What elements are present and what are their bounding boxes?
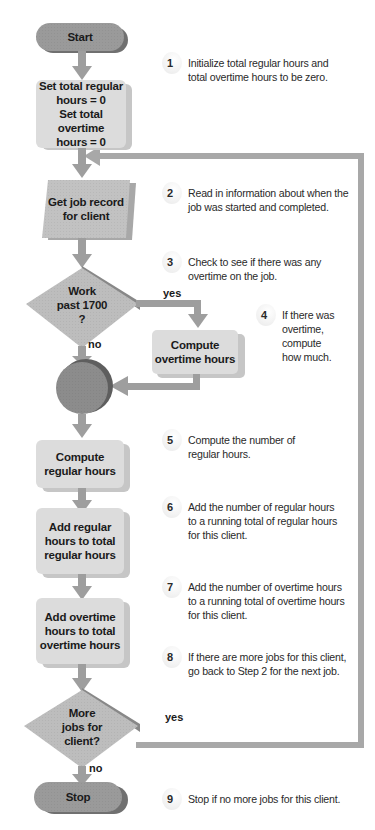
add-ot-line: hours to total xyxy=(45,624,116,638)
step-text: Stop if no more jobs for this client. xyxy=(188,792,340,806)
add-ot-node: Add overtime hours to total overtime hou… xyxy=(36,598,124,664)
init-node-line: hours = 0 xyxy=(56,135,106,149)
step-text-line: go back to Step 2 for the next job. xyxy=(188,664,346,678)
more-jobs-line: client? xyxy=(64,734,100,748)
stop-node: Stop xyxy=(34,782,122,812)
step-text-line: overtime, xyxy=(282,322,334,336)
step-text-line: Initialize total regular hours and xyxy=(188,56,328,70)
step-text-line: If there are more jobs for this client, xyxy=(188,650,346,664)
step-text-line: total overtime hours to be zero. xyxy=(188,70,328,84)
step-text-line: how much. xyxy=(282,350,334,364)
step-text-line: Compute the number of xyxy=(188,433,295,447)
step-text: Read in information about when the job w… xyxy=(188,186,348,214)
step-number: 3 xyxy=(167,256,173,268)
arrow-add-ot-to-more-jobs xyxy=(72,664,92,692)
step-text: Initialize total regular hours and total… xyxy=(188,56,328,84)
step-number: 8 xyxy=(167,651,173,663)
step-number: 6 xyxy=(167,501,173,513)
arrow-getjob-to-decision xyxy=(72,238,92,268)
init-node-line: Set total overtime xyxy=(36,107,126,135)
init-node-line: hours = 0 xyxy=(56,93,106,107)
compute-reg-line: Compute xyxy=(56,450,104,464)
step-text: Add the number of regular hours to a run… xyxy=(188,500,337,542)
step-number: 7 xyxy=(167,581,173,593)
start-node: Start xyxy=(36,23,124,51)
get-job-node: Get job record for client xyxy=(44,182,128,236)
work-past-line: ? xyxy=(79,312,86,326)
arrow-connector-to-compute-reg xyxy=(72,414,92,438)
step-number: 4 xyxy=(261,309,267,321)
step-text: Add the number of overtime hours to a ru… xyxy=(188,580,345,622)
step-text-line: Read in information about when the xyxy=(188,186,348,200)
edge-label-more-jobs-yes: yes xyxy=(165,711,183,723)
step-text-line: to a running total of regular hours xyxy=(188,514,337,528)
step-text-line: If there was xyxy=(282,308,334,322)
work-past-line: Work xyxy=(68,284,96,298)
step-text-line: to a running total of overtime hours xyxy=(188,594,345,608)
add-reg-line: hours to total xyxy=(45,534,116,548)
step-text: If there are more jobs for this client, … xyxy=(188,650,346,678)
compute-reg-node: Compute regular hours xyxy=(36,440,124,488)
step-number: 2 xyxy=(167,187,173,199)
add-ot-line: Add overtime xyxy=(44,610,115,624)
step-text: If there was overtime, compute how much. xyxy=(282,308,334,364)
more-jobs-decision-node: More jobs for client? xyxy=(42,704,122,750)
stop-node-label: Stop xyxy=(66,790,91,804)
get-job-node-line: for client xyxy=(63,209,110,223)
compute-reg-line: regular hours xyxy=(44,464,116,478)
get-job-node-line: Get job record xyxy=(48,195,124,209)
arrow-init-to-getjob xyxy=(72,148,92,178)
step-text-line: for this client. xyxy=(188,528,337,542)
step-text-line: Stop if no more jobs for this client. xyxy=(188,792,340,806)
step-number: 5 xyxy=(167,434,173,446)
step-text-line: Add the number of regular hours xyxy=(188,500,337,514)
step-text-line: job was started and completed. xyxy=(188,200,348,214)
start-node-label: Start xyxy=(67,30,92,44)
add-ot-line: overtime hours xyxy=(40,638,120,652)
edge-label-work-past-no: no xyxy=(88,338,101,350)
step-text: Compute the number of regular hours. xyxy=(188,433,295,461)
edge-label-work-past-yes: yes xyxy=(163,287,181,299)
step-text-line: regular hours. xyxy=(188,447,295,461)
connector-circle-shape xyxy=(56,359,113,414)
compute-ot-line: Compute xyxy=(171,338,219,352)
work-past-line: past 1700 xyxy=(57,298,108,312)
init-node: Set total regular hours = 0 Set total ov… xyxy=(36,80,126,148)
step-text-line: compute xyxy=(282,336,334,350)
step-text-line: Check to see if there was any xyxy=(188,255,321,269)
arrow-yes-to-compute-ot xyxy=(136,300,208,328)
compute-ot-line: overtime hours xyxy=(155,352,235,366)
add-reg-node: Add regular hours to total regular hours xyxy=(36,508,124,574)
add-reg-line: regular hours xyxy=(44,548,116,562)
more-jobs-line: More xyxy=(69,706,96,720)
add-reg-line: Add regular xyxy=(49,520,111,534)
arrow-start-to-init xyxy=(72,51,92,80)
step-text-line: for this client. xyxy=(188,608,345,622)
more-jobs-line: jobs for xyxy=(62,720,103,734)
step-text-line: overtime on the job. xyxy=(188,269,321,283)
work-past-decision-node: Work past 1700 ? xyxy=(42,282,122,328)
init-node-line: Set total regular xyxy=(39,79,123,93)
step-number: 1 xyxy=(167,57,173,69)
step-number: 9 xyxy=(167,793,173,805)
step-text: Check to see if there was any overtime o… xyxy=(188,255,321,283)
step-text-line: Add the number of overtime hours xyxy=(188,580,345,594)
compute-ot-node: Compute overtime hours xyxy=(152,330,238,374)
edge-label-more-jobs-no: no xyxy=(89,762,102,774)
